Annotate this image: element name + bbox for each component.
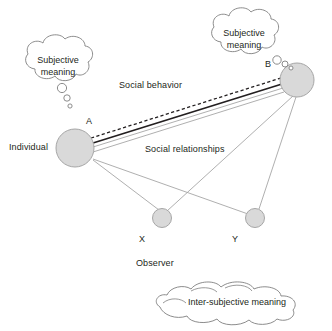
- node-b[interactable]: [280, 63, 314, 97]
- cloud-tail-bubble-medium-left: [64, 95, 70, 101]
- cloud-label-right-subjective-meaning: Subjective meaning: [210, 28, 278, 51]
- diagram-graphics: [0, 0, 332, 331]
- cloud-tail-bubble-large-left: [57, 83, 66, 92]
- label-node-a: A: [86, 116, 92, 127]
- cloud-tail-bubble-large-right: [273, 56, 281, 64]
- cloud-label-intersubjective-meaning: Inter-subjective meaning: [182, 297, 292, 309]
- edge-group-a-observers: [93, 159, 248, 214]
- node-observer-x[interactable]: [153, 209, 172, 228]
- label-node-y: Y: [232, 234, 238, 245]
- label-observer: Observer: [136, 258, 174, 269]
- edge-social-behavior-solid: [93, 84, 282, 143]
- edge-social-relationship-lower: [93, 92, 284, 152]
- cloud-label-left-subjective-meaning: Subjective meaning: [24, 55, 92, 78]
- label-node-x: X: [139, 234, 145, 245]
- label-social-behavior: Social behavior: [119, 80, 182, 91]
- edge-a-to-y: [93, 159, 248, 214]
- edge-group-social-relationships: [93, 88, 284, 152]
- label-social-relationships: Social relationships: [145, 144, 225, 155]
- cloud-tail-bubble-small-right: [289, 66, 293, 70]
- label-node-b: B: [265, 59, 271, 70]
- edge-b-to-y: [259, 97, 296, 209]
- cloud-tail-bubble-small-left: [68, 104, 72, 108]
- label-individual: Individual: [9, 142, 48, 153]
- diagram-canvas: Subjective meaning Subjective meaning In…: [0, 0, 332, 331]
- edge-a-to-x: [93, 160, 159, 210]
- cloud-tail-bubble-medium-right: [282, 61, 288, 67]
- node-observer-y[interactable]: [246, 209, 265, 228]
- edge-social-relationship-upper: [93, 88, 283, 147]
- node-individual-a[interactable]: [56, 129, 94, 167]
